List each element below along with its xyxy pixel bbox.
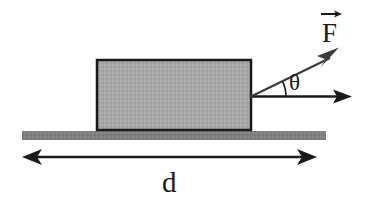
ground-surface	[22, 131, 326, 140]
distance-label: d	[162, 166, 177, 198]
block-body	[97, 60, 251, 130]
diagram-svg: F θ d	[0, 0, 385, 200]
force-vector-label-group: F	[321, 11, 342, 49]
force-vector-arrowhead	[317, 48, 339, 69]
distance-dimension-arrow	[22, 149, 317, 165]
force-vector-label: F	[322, 18, 337, 48]
physics-diagram-canvas: F θ d	[0, 0, 385, 200]
horizontal-reference-vector	[250, 90, 352, 104]
theta-angle-arc	[283, 81, 286, 97]
theta-angle-label: θ	[289, 70, 300, 95]
